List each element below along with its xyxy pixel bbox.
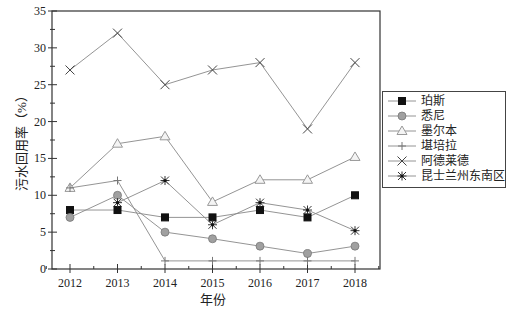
y-tick-label: 20 [34, 115, 46, 129]
legend-label: 堪培拉 [421, 139, 457, 153]
y-tick-label: 30 [34, 41, 46, 55]
x-tick-label: 2015 [201, 276, 225, 290]
gray-circle-icon [387, 109, 417, 123]
plus-icon [387, 139, 417, 153]
line-chart: 0510152025303520122013201420152016201720… [0, 0, 510, 315]
series-x [66, 29, 360, 134]
data-series [65, 29, 360, 265]
x-tick-label: 2018 [343, 276, 367, 290]
x-tick-label: 2014 [153, 276, 177, 290]
x-tick-label: 2016 [248, 276, 272, 290]
legend-label: 珀斯 [421, 94, 445, 108]
legend-item-seq: 昆士兰州东南区 [383, 169, 505, 183]
legend-item-perth: 珀斯 [383, 94, 505, 108]
x-mark-icon [387, 154, 417, 168]
legend-item-melbourne: 墨尔本 [383, 124, 505, 138]
x-axis-label: 年份 [200, 292, 226, 307]
series-asterisk [113, 176, 360, 235]
filled-square-icon [387, 94, 417, 108]
y-axis-label: 污水回用率（%） [14, 89, 29, 191]
series-open-triangle [65, 131, 360, 205]
y-tick-label: 15 [34, 151, 46, 165]
x-tick-label: 2013 [106, 276, 130, 290]
y-tick-label: 25 [34, 78, 46, 92]
axes: 0510152025303520122013201420152016201720… [34, 4, 380, 290]
asterisk-icon [387, 169, 417, 183]
y-tick-label: 35 [34, 4, 46, 18]
x-tick-label: 2012 [58, 276, 82, 290]
legend-label: 墨尔本 [421, 124, 457, 138]
legend-label: 悉尼 [421, 109, 445, 123]
legend: 珀斯 悉尼 墨尔本 堪培拉 阿德莱德 昆士兰州东南区 [382, 91, 506, 188]
y-tick-label: 10 [34, 188, 46, 202]
legend-item-adelaide: 阿德莱德 [383, 154, 505, 168]
y-tick-label: 0 [40, 262, 46, 276]
y-tick-label: 5 [40, 225, 46, 239]
open-triangle-icon [387, 124, 417, 138]
legend-label: 昆士兰州东南区 [421, 169, 505, 183]
legend-item-sydney: 悉尼 [383, 109, 505, 123]
x-tick-label: 2017 [296, 276, 320, 290]
legend-label: 阿德莱德 [421, 154, 469, 168]
plot-frame [52, 11, 380, 269]
legend-item-canberra: 堪培拉 [383, 139, 505, 153]
